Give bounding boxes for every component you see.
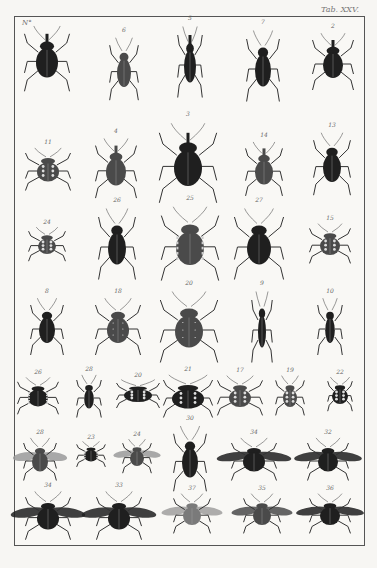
figure-number: 26 — [113, 196, 121, 203]
figure-number: 30 — [186, 414, 194, 421]
figure-number: 11 — [44, 138, 52, 145]
specimen-figure: 8 — [15, 289, 79, 357]
figure-number: 18 — [114, 287, 122, 294]
insect-icon — [133, 281, 245, 366]
specimen-figure: 20 — [133, 281, 245, 366]
figure-number: 6 — [122, 26, 126, 33]
figure-number: 4 — [114, 127, 118, 134]
figure-number: 3 — [186, 110, 190, 117]
insect-icon — [15, 289, 79, 357]
insect-icon — [228, 133, 300, 198]
specimen-figure: 9 — [242, 281, 282, 366]
specimen-figure: 36 — [290, 486, 370, 534]
insect-icon — [210, 430, 298, 481]
figure-number: 24 — [43, 218, 51, 225]
figure-number: 24 — [133, 430, 141, 437]
insect-icon — [96, 28, 152, 103]
figure-number: 28 — [85, 365, 93, 372]
specimen-figure — [3, 16, 91, 94]
specimen-figure: 2 — [293, 24, 373, 92]
specimen-figure: 22 — [308, 370, 372, 411]
specimen-figure: 7 — [231, 20, 295, 105]
insect-icon — [75, 483, 163, 541]
insect-icon — [288, 430, 368, 481]
insect-icon — [166, 16, 214, 101]
specimen-figure: 14 — [228, 133, 300, 198]
insect-icon — [296, 123, 368, 198]
figure-number: 33 — [115, 481, 123, 488]
insect-icon — [306, 289, 354, 357]
figure-number: 37 — [188, 484, 196, 491]
figure-number: 32 — [324, 428, 332, 435]
specimen-figure: 24 — [11, 220, 83, 261]
specimen-figure: 13 — [296, 123, 368, 198]
specimen-figure: 6 — [96, 28, 152, 103]
figure-number: 27 — [255, 196, 263, 203]
figure-number: 25 — [186, 194, 194, 201]
specimen-figure: 35 — [226, 486, 298, 534]
figure-number: 26 — [34, 368, 42, 375]
insect-icon — [226, 486, 298, 534]
figure-number: 22 — [336, 368, 344, 375]
figure-number: 5 — [188, 14, 192, 21]
figure-number: 2 — [331, 22, 335, 29]
insect-icon — [308, 370, 372, 411]
figure-number: 23 — [87, 433, 95, 440]
insect-icon — [3, 16, 91, 94]
figure-number: 34 — [44, 481, 52, 488]
figure-number: 14 — [260, 131, 268, 138]
specimen-figure: 5 — [166, 16, 214, 101]
specimen-figure: 37 — [156, 486, 228, 534]
figure-number: 20 — [185, 279, 193, 286]
figure-number: 10 — [326, 287, 334, 294]
figure-number: 36 — [326, 484, 334, 491]
insect-icon — [11, 220, 83, 261]
figure-number: 21 — [184, 365, 192, 372]
specimen-figure: 32 — [288, 430, 368, 481]
specimen-figure: 24 — [109, 432, 165, 473]
insect-icon — [290, 216, 370, 264]
figure-number: 28 — [36, 428, 44, 435]
insect-icon — [231, 20, 295, 105]
insect-icon — [293, 24, 373, 92]
figure-number: 15 — [326, 214, 334, 221]
insect-icon — [290, 486, 370, 534]
insect-icon — [156, 486, 228, 534]
specimen-figure: 33 — [75, 483, 163, 541]
specimen-figure: 15 — [290, 216, 370, 264]
specimen-figure: 10 — [306, 289, 354, 357]
figure-number: 8 — [45, 287, 49, 294]
figure-number: 35 — [258, 484, 266, 491]
figure-number: 9 — [260, 279, 264, 286]
figure-number: 7 — [261, 18, 265, 25]
insect-icon — [109, 432, 165, 473]
specimen-figure: 34 — [210, 430, 298, 481]
figure-number: 19 — [286, 366, 294, 373]
figure-number: 17 — [236, 366, 244, 373]
plate-label: Tab. XXV. — [321, 5, 359, 14]
figure-number: 13 — [328, 121, 336, 128]
insect-icon — [242, 281, 282, 366]
figure-number: 34 — [250, 428, 258, 435]
